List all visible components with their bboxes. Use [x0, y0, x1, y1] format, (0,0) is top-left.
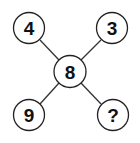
connector-bottom-left: [40, 83, 59, 104]
node-top-left-value: 4: [24, 18, 35, 39]
number-puzzle-diagram: 4 3 8 9 ?: [0, 0, 140, 143]
node-bottom-left-value: 9: [24, 105, 35, 126]
node-top-right-value: 3: [107, 18, 118, 39]
node-bottom-right-unknown: ?: [107, 105, 119, 126]
connector-top-left: [40, 40, 59, 60]
node-top-right: 3: [97, 13, 128, 44]
node-bottom-left: 9: [14, 100, 45, 131]
node-bottom-right: ?: [98, 100, 129, 131]
node-center: 8: [54, 56, 86, 88]
connector-bottom-right: [81, 83, 101, 104]
connector-top-right: [81, 40, 101, 60]
node-top-left: 4: [14, 13, 45, 44]
node-center-value: 8: [65, 62, 76, 83]
